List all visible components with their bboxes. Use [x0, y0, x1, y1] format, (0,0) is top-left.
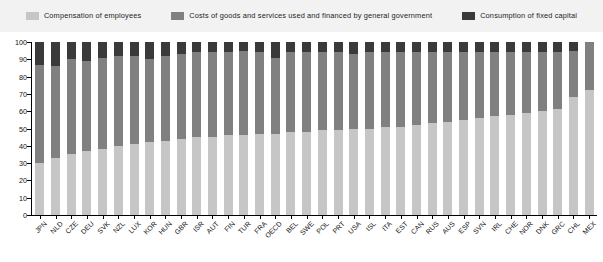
bar-segment-compensation	[286, 132, 295, 215]
bar-segment-fixed-capital	[98, 42, 107, 58]
x-tick-label-text: MEX	[581, 220, 597, 236]
bar-can	[412, 42, 421, 215]
bar-rus	[428, 42, 437, 215]
bar-bel	[286, 42, 295, 215]
bar-chl	[569, 42, 578, 215]
legend-item-costs-of-goods-and-services: Costs of goods and services used and fin…	[171, 12, 432, 20]
bar-segment-goods-and-services	[286, 52, 295, 132]
y-tick-mark	[27, 146, 31, 147]
x-tick-label-text: SVK	[96, 220, 111, 235]
bar-segment-fixed-capital	[490, 42, 499, 52]
bar-segment-fixed-capital	[208, 42, 217, 52]
x-tick-mark	[307, 216, 308, 219]
x-tick-mark	[573, 216, 574, 219]
bar-aut	[208, 42, 217, 215]
bar-segment-fixed-capital	[177, 42, 186, 54]
x-tick-mark	[197, 216, 198, 219]
bar-segment-fixed-capital	[349, 42, 358, 54]
y-tick-label: 10	[19, 194, 27, 201]
bar-fra	[255, 42, 264, 215]
stacked-bar-chart: Compensation of employees Costs of goods…	[0, 0, 603, 262]
bar-dnk	[538, 42, 547, 215]
x-axis-labels: JPNNLDCZEDEUSVKNZLLUXKORHUNGBRISRAUTFINT…	[32, 220, 597, 262]
bar-segment-goods-and-services	[538, 52, 547, 111]
bar-segment-fixed-capital	[459, 42, 468, 52]
bar-segment-compensation	[334, 130, 343, 215]
legend-swatch-costs-of-goods-and-services	[171, 12, 184, 20]
bar-swe	[302, 42, 311, 215]
bar-segment-fixed-capital	[428, 42, 437, 52]
x-tick-mark	[369, 216, 370, 219]
y-tick-mark	[27, 180, 31, 181]
bar-jpn	[35, 42, 44, 215]
bar-segment-goods-and-services	[255, 52, 264, 133]
bar-segment-goods-and-services	[569, 51, 578, 98]
x-tick-mark	[385, 216, 386, 219]
bar-segment-compensation	[51, 158, 60, 215]
bar-fin	[224, 42, 233, 215]
bar-segment-goods-and-services	[396, 52, 405, 126]
bar-segment-compensation	[239, 135, 248, 215]
bar-segment-goods-and-services	[506, 52, 515, 114]
bar-segment-goods-and-services	[381, 52, 390, 126]
y-tick-label: 60	[19, 108, 27, 115]
x-tick-label-text: ISL	[365, 220, 377, 232]
x-tick-label-text: AUS	[441, 220, 456, 235]
bar-segment-goods-and-services	[192, 52, 201, 137]
bar-segment-compensation	[428, 123, 437, 215]
bar-segment-fixed-capital	[114, 42, 123, 56]
chart-legend: Compensation of employees Costs of goods…	[0, 0, 603, 32]
bar-segment-goods-and-services	[302, 52, 311, 132]
x-tick-label-text: AUT	[206, 220, 221, 235]
bar-segment-fixed-capital	[192, 42, 201, 52]
bar-pol	[318, 42, 327, 215]
bar-svn	[475, 42, 484, 215]
y-tick-label: 70	[19, 90, 27, 97]
bar-nld	[51, 42, 60, 215]
bar-segment-compensation	[443, 122, 452, 215]
bar-cze	[67, 42, 76, 215]
x-tick-label-text: DNK	[535, 220, 550, 235]
bar-segment-compensation	[271, 134, 280, 215]
x-tick-label-text: IRL	[490, 220, 503, 233]
bar-segment-compensation	[349, 129, 358, 216]
bar-segment-fixed-capital	[522, 42, 531, 52]
x-tick-mark	[432, 216, 433, 219]
y-tick-label: 50	[19, 125, 27, 132]
bar-segment-goods-and-services	[365, 52, 374, 128]
x-tick-mark	[165, 216, 166, 219]
bar-segment-fixed-capital	[443, 42, 452, 52]
bar-segment-goods-and-services	[585, 42, 594, 90]
bar-isl	[365, 42, 374, 215]
bar-segment-compensation	[192, 137, 201, 215]
bar-segment-fixed-capital	[35, 42, 44, 64]
x-tick-mark	[511, 216, 512, 219]
x-tick-mark	[228, 216, 229, 219]
bar-che	[506, 42, 515, 215]
bar-segment-compensation	[490, 116, 499, 215]
x-tick-label-text: EST	[394, 220, 409, 235]
bar-segment-compensation	[161, 141, 170, 215]
x-tick-label-text: LUX	[127, 220, 142, 235]
bar-segment-compensation	[224, 135, 233, 215]
bar-segment-fixed-capital	[82, 42, 91, 61]
bar-segment-compensation	[522, 113, 531, 215]
x-tick-mark	[448, 216, 449, 219]
bar-tur	[239, 42, 248, 215]
legend-label-compensation-of-employees: Compensation of employees	[44, 12, 141, 20]
x-tick-label-text: NLD	[49, 220, 64, 235]
x-tick-mark	[87, 216, 88, 219]
bar-segment-goods-and-services	[130, 56, 139, 144]
bar-segment-compensation	[538, 111, 547, 215]
bar-segment-fixed-capital	[365, 42, 374, 52]
bar-segment-compensation	[302, 132, 311, 215]
bar-segment-compensation	[365, 129, 374, 216]
x-tick-label-text: ITA	[381, 220, 393, 232]
bar-isr	[192, 42, 201, 215]
bar-gbr	[177, 42, 186, 215]
bar-segment-fixed-capital	[51, 42, 60, 66]
x-tick-mark	[40, 216, 41, 219]
x-tick-mark	[150, 216, 151, 219]
bar-segment-compensation	[381, 127, 390, 215]
bar-segment-goods-and-services	[67, 59, 76, 154]
